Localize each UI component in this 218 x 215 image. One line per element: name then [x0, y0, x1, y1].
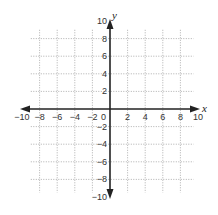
- y-tick-label: −4: [97, 139, 107, 149]
- x-tick-label: −2: [87, 112, 97, 122]
- y-tick-label: −10: [92, 192, 107, 202]
- x-tick-label: 2: [125, 112, 130, 122]
- y-axis-down-arrow-icon: [107, 189, 114, 199]
- x-tick-label: 6: [160, 112, 165, 122]
- y-tick-label: −8: [97, 174, 107, 184]
- y-tick-label: −6: [97, 157, 107, 167]
- coordinate-plane: −10−8−6−4−2246810−10−8−6−4−2246810 x y 0: [0, 0, 218, 215]
- origin-label: 0: [101, 112, 106, 122]
- y-axis-label: y: [111, 9, 117, 21]
- x-tick-label: 4: [143, 112, 148, 122]
- y-tick-label: −2: [97, 122, 107, 132]
- x-tick-label: −4: [70, 112, 80, 122]
- axes: [20, 19, 200, 199]
- x-tick-label: 8: [178, 112, 183, 122]
- y-tick-label: 10: [97, 16, 107, 26]
- y-tick-label: 8: [102, 34, 107, 44]
- x-tick-label: −6: [52, 112, 62, 122]
- x-axis-label: x: [201, 102, 207, 114]
- y-tick-label: 4: [102, 69, 107, 79]
- x-tick-label: −8: [34, 112, 44, 122]
- y-tick-label: 6: [102, 51, 107, 61]
- x-tick-label: −10: [14, 112, 29, 122]
- y-tick-label: 2: [102, 86, 107, 96]
